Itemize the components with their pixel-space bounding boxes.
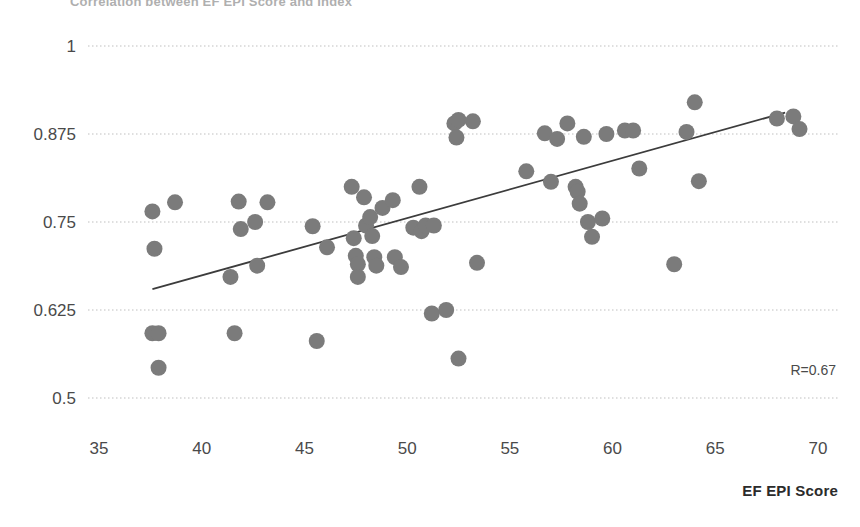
trendline <box>152 113 785 290</box>
data-point <box>309 333 325 349</box>
y-axis-tick-label: 1 <box>0 38 76 55</box>
data-point <box>259 194 275 210</box>
x-axis-tick-label: 40 <box>192 440 211 457</box>
data-point <box>792 121 808 137</box>
data-point <box>151 360 167 376</box>
data-point <box>451 351 467 367</box>
plot-area <box>0 0 860 527</box>
data-point <box>451 112 467 128</box>
data-point <box>364 228 380 244</box>
data-point <box>368 258 384 274</box>
data-point <box>631 160 647 176</box>
data-point <box>319 239 335 255</box>
data-point <box>227 325 243 341</box>
y-axis-tick-label: 0.75 <box>0 214 76 231</box>
x-axis-tick-label: 60 <box>603 440 622 457</box>
data-point <box>576 129 592 145</box>
data-point <box>350 269 366 285</box>
data-point <box>769 111 785 127</box>
x-axis-title: EF EPI Score <box>742 482 838 499</box>
data-point <box>385 192 401 208</box>
data-point <box>438 302 454 318</box>
data-point <box>572 196 588 212</box>
data-point <box>305 218 321 234</box>
data-point <box>167 194 183 210</box>
data-point <box>344 179 360 195</box>
data-point <box>549 131 565 147</box>
data-point <box>469 255 485 271</box>
data-point <box>411 179 427 195</box>
data-point <box>679 124 695 140</box>
y-axis-tick-label: 0.875 <box>0 126 76 143</box>
x-axis-tick-label: 55 <box>500 440 519 457</box>
data-point <box>151 325 167 341</box>
data-point <box>666 256 682 272</box>
data-point <box>687 94 703 110</box>
trendline-path <box>152 113 785 290</box>
data-point <box>465 113 481 129</box>
correlation-annotation: R=0.67 <box>790 362 836 378</box>
data-point <box>625 122 641 138</box>
data-point <box>594 210 610 226</box>
data-point <box>543 174 559 190</box>
data-point <box>393 259 409 275</box>
x-axis-tick-label: 65 <box>706 440 725 457</box>
data-point <box>249 258 265 274</box>
data-point <box>247 214 263 230</box>
data-point <box>426 218 442 234</box>
data-point <box>233 221 249 237</box>
data-point <box>580 214 596 230</box>
scatter-chart: Correlation between EF EPI Score and Ind… <box>0 0 860 527</box>
data-point <box>559 115 575 131</box>
data-point <box>222 269 238 285</box>
data-point <box>231 194 247 210</box>
x-axis-tick-label: 35 <box>90 440 109 457</box>
gridlines <box>88 46 838 398</box>
y-axis-tick-label: 0.625 <box>0 302 76 319</box>
data-point <box>584 229 600 245</box>
y-axis-tick-label: 0.5 <box>0 390 76 407</box>
data-point <box>598 126 614 142</box>
data-point <box>518 163 534 179</box>
data-points <box>144 94 807 375</box>
data-point <box>691 173 707 189</box>
data-point <box>346 230 362 246</box>
data-point <box>144 203 160 219</box>
x-axis-tick-label: 50 <box>398 440 417 457</box>
data-point <box>424 306 440 322</box>
data-point <box>448 130 464 146</box>
data-point <box>356 189 372 205</box>
data-point <box>146 241 162 257</box>
x-axis-tick-label: 70 <box>809 440 828 457</box>
x-axis-tick-label: 45 <box>295 440 314 457</box>
